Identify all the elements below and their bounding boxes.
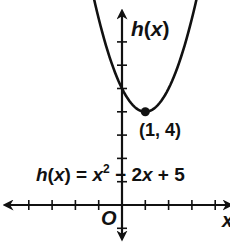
- origin-label: O: [101, 207, 117, 229]
- vertex-label: (1, 4): [139, 120, 181, 140]
- vertex-point: [141, 107, 150, 116]
- y-axis-label: h(x): [131, 17, 170, 40]
- x-axis-label: x: [221, 209, 230, 231]
- function-graph: h(x) (1, 4) h(x) = x2 − 2x + 5 O x: [0, 0, 230, 245]
- equation-label: h(x) = x2 − 2x + 5: [36, 162, 185, 185]
